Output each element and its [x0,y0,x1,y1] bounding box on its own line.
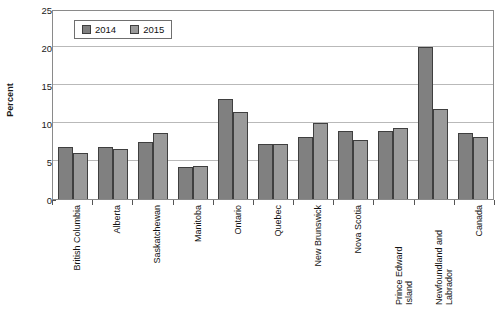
y-axis-title-text: Percent [5,83,15,117]
x-axis-label-cell: Nova Scotia [333,205,373,309]
legend-item: 2015 [130,24,164,35]
x-axis-label: Nova Scotia [353,205,363,254]
x-axis-label: Canada [474,205,484,237]
legend-label: 2014 [95,24,116,35]
legend-swatch-icon [130,25,139,34]
bar [418,47,433,199]
x-axis-label-cell: Saskatchewan [132,205,172,309]
bar [393,128,408,199]
bar [153,133,168,199]
bar [258,144,273,199]
bar-group [133,11,173,199]
bar [458,133,473,199]
bar [98,147,113,199]
bar-group [293,11,333,199]
x-axis-label: Alberta [112,205,122,234]
bar [73,153,88,199]
legend-item: 2014 [82,24,116,35]
bar [218,99,233,199]
bar [113,149,128,199]
bar [298,137,313,199]
bar-group [453,11,493,199]
x-axis-label-cell: Newfoundland andLabrador [414,205,454,309]
x-axis-label-cell: New Brunswick [293,205,333,309]
chart-legend: 20142015 [74,20,172,39]
legend-label: 2015 [143,24,164,35]
bar [138,142,153,199]
x-axis-label-cell: Prince EdwardIsland [374,205,414,309]
bar-group [213,11,253,199]
bar-group [93,11,133,199]
bar [378,131,393,199]
bar-groups [53,11,493,199]
bar [233,112,248,199]
x-tick-mark [494,200,495,205]
bar-group [173,11,213,199]
y-tick-label: 5 [30,157,52,168]
bar-group [373,11,413,199]
bar-group [413,11,453,199]
x-axis-label: Prince EdwardIsland [394,205,414,305]
bar [178,167,193,199]
x-axis-label: British Columbia [72,205,82,271]
y-tick-label: 25 [30,5,52,16]
y-axis-title: Percent [0,0,20,200]
bar [313,123,328,199]
bar-group [253,11,293,199]
y-axis-tick-labels: 0510152025 [18,0,52,309]
y-tick-label: 0 [30,195,52,206]
bar-group [333,11,373,199]
bar [433,109,448,199]
bar-chart: Percent 0510152025 20142015 British Colu… [0,0,502,309]
x-axis-label-cell: Quebec [253,205,293,309]
x-axis-label-cell: British Columbia [52,205,92,309]
x-axis-label: Manitoba [193,205,203,242]
bar [338,131,353,199]
x-axis-label-cell: Alberta [92,205,132,309]
y-tick-label: 15 [30,81,52,92]
x-axis-label: Newfoundland andLabrador [434,205,454,305]
bar [353,140,368,199]
x-axis-labels: British ColumbiaAlbertaSaskatchewanManit… [52,205,494,309]
bar [58,147,73,199]
x-axis-label: Saskatchewan [152,205,162,264]
x-axis-label: New Brunswick [313,205,323,267]
x-axis-label-cell: Ontario [213,205,253,309]
bar [193,166,208,199]
x-axis-label: Quebec [273,205,283,237]
bar [273,144,288,199]
y-tick-label: 20 [30,43,52,54]
y-tick-label: 10 [30,119,52,130]
bar-group [53,11,93,199]
x-axis-label-cell: Manitoba [173,205,213,309]
legend-swatch-icon [82,25,91,34]
x-axis-label-cell: Canada [454,205,494,309]
bar [473,137,488,199]
x-axis-label: Ontario [233,205,243,235]
